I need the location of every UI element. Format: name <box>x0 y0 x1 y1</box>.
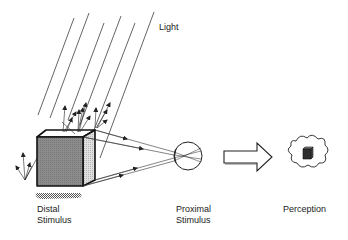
light-label: Light <box>159 22 179 33</box>
perception-label: Perception <box>283 204 326 215</box>
left-reflected-arrows <box>16 153 37 180</box>
eye <box>174 142 202 170</box>
cube-front-face <box>37 137 83 186</box>
distal-stimulus-label: Distal Stimulus <box>37 204 72 226</box>
eyeball <box>174 142 202 170</box>
distal-label-line1: Distal <box>37 204 72 215</box>
thought-cloud <box>288 135 328 167</box>
proximal-stimulus-label: Proximal Stimulus <box>176 204 211 226</box>
distal-label-line2: Stimulus <box>37 215 72 226</box>
mini-cube <box>303 147 313 159</box>
cube-shadow <box>36 193 82 199</box>
proximal-label-line2: Stimulus <box>176 215 211 226</box>
proximal-label-line1: Proximal <box>176 204 211 215</box>
projection-rays <box>83 130 174 186</box>
eye-internal-rays <box>174 148 201 162</box>
distal-cube <box>37 130 95 186</box>
process-arrow <box>224 143 272 171</box>
perception-diagram: Light Distal Stimulus Proximal Stimulus … <box>0 0 348 240</box>
